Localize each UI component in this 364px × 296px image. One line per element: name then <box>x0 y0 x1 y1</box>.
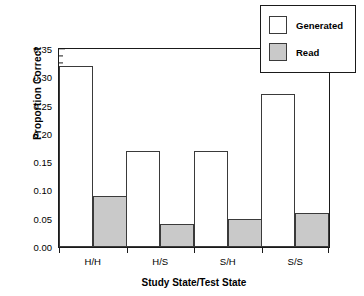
bar-h-h-read <box>93 196 127 247</box>
y-tick-label: 0.25 <box>10 100 59 111</box>
y-minor-tick-mark <box>59 55 63 56</box>
y-tick-label: 0.10 <box>10 185 59 196</box>
x-tick-mark <box>262 247 263 253</box>
legend-item-generated: Generated <box>269 16 343 34</box>
bar-h-h-generated <box>59 66 93 247</box>
y-tick-label: 0.00 <box>10 242 59 253</box>
x-tick-label: S/H <box>220 256 236 267</box>
x-tick-mark <box>127 247 128 253</box>
bar-h-s-read <box>160 224 194 247</box>
y-tick-label: 0.15 <box>10 157 59 168</box>
legend-swatch-read-icon <box>269 43 287 61</box>
y-minor-tick-mark <box>59 63 63 64</box>
plot-area: 0.000.050.100.150.200.250.300.35H/HH/SS/… <box>58 48 330 248</box>
x-tick-mark <box>194 247 195 253</box>
y-tick-label: 0.20 <box>10 128 59 139</box>
chart-legend: Generated Read <box>260 5 356 73</box>
y-tick-label: 0.30 <box>10 72 59 83</box>
bar-s-s-generated <box>261 94 295 247</box>
legend-label-read: Read <box>296 47 319 58</box>
legend-item-read: Read <box>269 43 319 61</box>
legend-label-generated: Generated <box>296 20 343 31</box>
legend-swatch-generated-icon <box>269 16 287 34</box>
y-tick-mark <box>59 48 65 49</box>
x-tick-label: H/H <box>85 256 101 267</box>
bar-s-h-generated <box>194 151 228 247</box>
bar-chart-figure: Proportion Correct 0.000.050.100.150.200… <box>0 0 364 296</box>
y-tick-label: 0.05 <box>10 213 59 224</box>
y-axis-title: Proportion Correct <box>32 9 43 179</box>
x-tick-label: S/S <box>288 256 303 267</box>
x-axis-title: Study State/Test State <box>58 277 330 288</box>
bar-h-s-generated <box>126 151 160 247</box>
bar-s-s-read <box>295 213 329 247</box>
x-tick-mark <box>59 247 60 253</box>
y-tick-label: 0.35 <box>10 44 59 55</box>
x-tick-label: H/S <box>152 256 168 267</box>
bar-s-h-read <box>228 219 262 247</box>
x-tick-mark <box>328 247 329 253</box>
